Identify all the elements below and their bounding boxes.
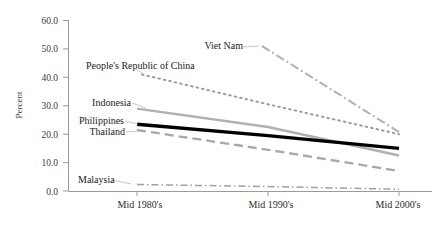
- series-label-malaysia: Malaysia: [78, 174, 115, 185]
- leader-line-indonesia: [132, 103, 146, 108]
- x-axis-ticks: [137, 192, 399, 197]
- y-tick-label-0: 0.0: [46, 187, 58, 197]
- series-label-viet-nam: Viet Nam: [204, 40, 243, 51]
- y-tick-label-20: 20.0: [41, 130, 58, 140]
- y-tick-label-50: 50.0: [41, 44, 58, 54]
- leader-line-philippines: [125, 121, 138, 124]
- series-line-china: [142, 75, 399, 135]
- leader-line-thailand: [126, 131, 139, 132]
- y-tick-label-10: 10.0: [41, 158, 58, 168]
- x-tick-label-mid-1980s: Mid 1980's: [118, 199, 163, 210]
- x-tick-label-mid-1990s: Mid 1990's: [249, 199, 294, 210]
- series-line-indonesia: [137, 109, 399, 156]
- chart-container: 60.0 50.0 40.0 30.0 20.0 10.0 0.0 Percen…: [0, 0, 446, 228]
- y-tick-label-30: 30.0: [41, 101, 58, 111]
- series-line-viet-nam: [262, 46, 399, 132]
- series-label-thailand: Thailand: [89, 126, 125, 137]
- series-label-indonesia: Indonesia: [92, 97, 131, 108]
- leader-line-malaysia: [112, 180, 131, 184]
- leader-line-viet-nam: [243, 46, 259, 47]
- series-label-philippines: Philippines: [79, 115, 124, 126]
- line-chart: 60.0 50.0 40.0 30.0 20.0 10.0 0.0 Percen…: [0, 0, 446, 228]
- y-axis-ticks: [63, 21, 69, 192]
- y-axis-title: Percent: [14, 91, 24, 118]
- y-tick-label-40: 40.0: [41, 73, 58, 83]
- y-tick-label-60: 60.0: [41, 16, 58, 26]
- series-line-malaysia: [137, 185, 399, 190]
- series-label-china: People's Republic of China: [86, 60, 195, 71]
- x-tick-label-mid-2000s: Mid 2000's: [376, 199, 421, 210]
